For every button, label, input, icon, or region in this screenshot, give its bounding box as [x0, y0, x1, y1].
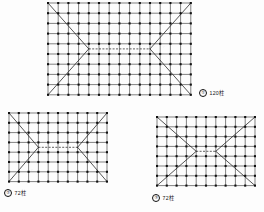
column-node [18, 141, 20, 143]
column-node [156, 126, 158, 128]
column-node [67, 181, 69, 183]
column-node [185, 185, 187, 187]
column-node [47, 132, 49, 134]
column-node [139, 94, 141, 96]
column-node [118, 22, 120, 24]
column-node [108, 12, 110, 14]
column-node [159, 94, 161, 96]
column-node [67, 171, 69, 173]
column-node [67, 33, 69, 35]
column-node [215, 155, 217, 157]
plan-3-count-label: 72柱 [163, 196, 174, 201]
column-node [28, 161, 30, 163]
column-node [129, 2, 131, 4]
column-node [234, 165, 236, 167]
column-node [77, 161, 79, 163]
column-node [37, 112, 39, 114]
column-node [159, 22, 161, 24]
column-node [205, 126, 207, 128]
column-node [139, 73, 141, 75]
column-node [139, 63, 141, 65]
plan-3-marker: ③ [152, 194, 160, 202]
column-node [57, 12, 59, 14]
column-node [244, 145, 246, 147]
column-node [67, 122, 69, 124]
column-node [106, 122, 108, 124]
column-node [169, 73, 171, 75]
column-node [156, 165, 158, 167]
column-node [129, 43, 131, 45]
column-node [176, 155, 178, 157]
column-node [106, 171, 108, 173]
plan-2-svg [8, 112, 108, 183]
column-node [176, 116, 178, 118]
column-node [67, 12, 69, 14]
column-node [28, 151, 30, 153]
column-node [77, 141, 79, 143]
column-node [180, 63, 182, 65]
roof-plan-3 [156, 116, 254, 185]
column-node [156, 136, 158, 138]
column-node [47, 12, 49, 14]
column-node [129, 63, 131, 65]
column-node [57, 161, 59, 163]
column-node [86, 122, 88, 124]
column-node [88, 94, 90, 96]
column-node [67, 161, 69, 163]
column-node [159, 12, 161, 14]
column-node [78, 53, 80, 55]
column-node [108, 33, 110, 35]
column-node [234, 116, 236, 118]
column-node [78, 63, 80, 65]
column-node [98, 22, 100, 24]
column-node [166, 145, 168, 147]
column-node [57, 84, 59, 86]
column-node [129, 84, 131, 86]
column-node [28, 181, 30, 183]
column-node [215, 185, 217, 187]
column-node [234, 155, 236, 157]
column-node [234, 145, 236, 147]
column-node [166, 175, 168, 177]
column-node [86, 181, 88, 183]
column-node [96, 132, 98, 134]
column-node [57, 33, 59, 35]
column-node [37, 161, 39, 163]
roof-plan-2 [8, 112, 106, 181]
column-node [98, 33, 100, 35]
column-node [156, 155, 158, 157]
column-node [195, 165, 197, 167]
column-node [254, 126, 256, 128]
column-node [88, 2, 90, 4]
column-node [57, 112, 59, 114]
column-node [47, 33, 49, 35]
column-node [67, 2, 69, 4]
column-node [108, 63, 110, 65]
column-node [108, 73, 110, 75]
column-node [159, 84, 161, 86]
column-node [47, 94, 49, 96]
column-node [18, 181, 20, 183]
column-node [225, 185, 227, 187]
column-node [129, 22, 131, 24]
column-node [234, 126, 236, 128]
column-node [106, 181, 108, 183]
column-node [96, 141, 98, 143]
column-node [106, 161, 108, 163]
column-node [129, 53, 131, 55]
column-node [88, 12, 90, 14]
column-node [37, 171, 39, 173]
column-node [205, 145, 207, 147]
column-node [149, 12, 151, 14]
column-node [47, 151, 49, 153]
column-node [57, 22, 59, 24]
column-node [96, 151, 98, 153]
column-node [86, 132, 88, 134]
column-node [190, 63, 192, 65]
column-node [98, 84, 100, 86]
column-node [195, 136, 197, 138]
column-node [169, 43, 171, 45]
column-node [139, 84, 141, 86]
column-node [118, 63, 120, 65]
column-node [67, 151, 69, 153]
